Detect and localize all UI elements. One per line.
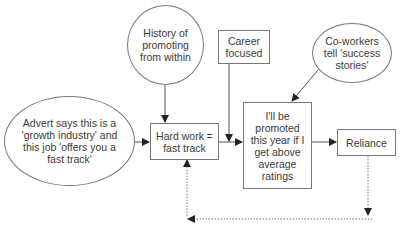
node-advert: Advert says this is a 'growth industry' … <box>4 96 135 186</box>
node-history: History of promoting from within <box>127 5 204 85</box>
node-career: Career focused <box>218 30 270 64</box>
node-coworkers-label: Co-workers tell 'success stories' <box>319 35 385 71</box>
node-coworkers: Co-workers tell 'success stories' <box>312 23 392 83</box>
node-promoted: I'll be promoted this year if I get abov… <box>243 102 312 189</box>
node-reliance: Reliance <box>337 129 396 156</box>
node-advert-label: Advert says this is a 'growth industry' … <box>15 117 124 165</box>
node-career-label: Career focused <box>222 35 266 59</box>
node-history-label: History of promoting from within <box>134 27 197 63</box>
node-promoted-label: I'll be promoted this year if I get abov… <box>249 110 306 182</box>
node-hardwork: Hard work = fast track <box>150 123 219 160</box>
node-reliance-label: Reliance <box>346 137 387 149</box>
node-hardwork-label: Hard work = fast track <box>155 130 214 154</box>
edge-coworkers-to-promoted <box>292 70 318 101</box>
